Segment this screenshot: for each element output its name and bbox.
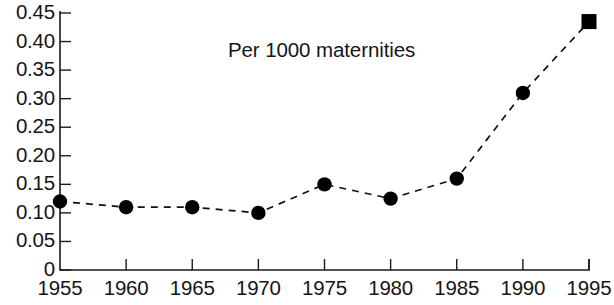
y-axis-ticks [60, 13, 71, 270]
y-axis-tick-label: 0.15 [16, 171, 55, 195]
data-point-marker-circle [251, 206, 265, 220]
y-axis-tick-label: 0.20 [16, 143, 55, 167]
y-axis-tick-label: 0.30 [16, 86, 55, 110]
y-axis-tick-label: 0.40 [16, 29, 55, 53]
data-point-marker-circle [383, 191, 397, 205]
data-point-marker-square [582, 14, 597, 29]
data-point-marker-circle [450, 171, 464, 185]
line-chart: 0.450.400.350.300.250.200.150.100.050 19… [0, 0, 614, 305]
data-point-marker-circle [317, 177, 331, 191]
data-point-marker-circle [516, 86, 530, 100]
x-axis-ticks [126, 259, 589, 270]
y-axis-tick-label: 0.45 [16, 0, 55, 24]
chart-title: Per 1000 maternities [228, 38, 415, 62]
y-axis-tick-label: 0.10 [16, 200, 55, 224]
y-axis-tick-label: 0.25 [16, 114, 55, 138]
data-point-marker-circle [185, 200, 199, 214]
data-point-marker-circle [119, 200, 133, 214]
y-axis-tick-label: 0.35 [16, 57, 55, 81]
x-axis-tick-label: 1995 [549, 276, 614, 300]
y-axis-tick-label: 0.05 [16, 228, 55, 252]
